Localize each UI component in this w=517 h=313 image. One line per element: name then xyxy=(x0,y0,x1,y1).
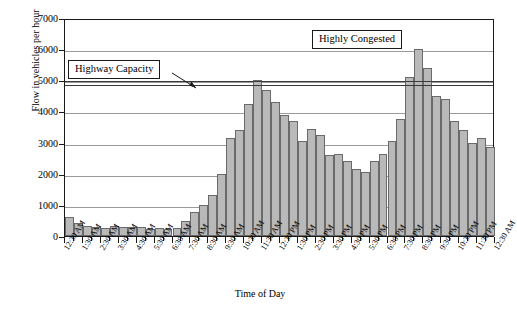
callout-highway-capacity: Highway Capacity xyxy=(68,60,160,79)
callout-highly-congested: Highly Congested xyxy=(312,30,402,49)
